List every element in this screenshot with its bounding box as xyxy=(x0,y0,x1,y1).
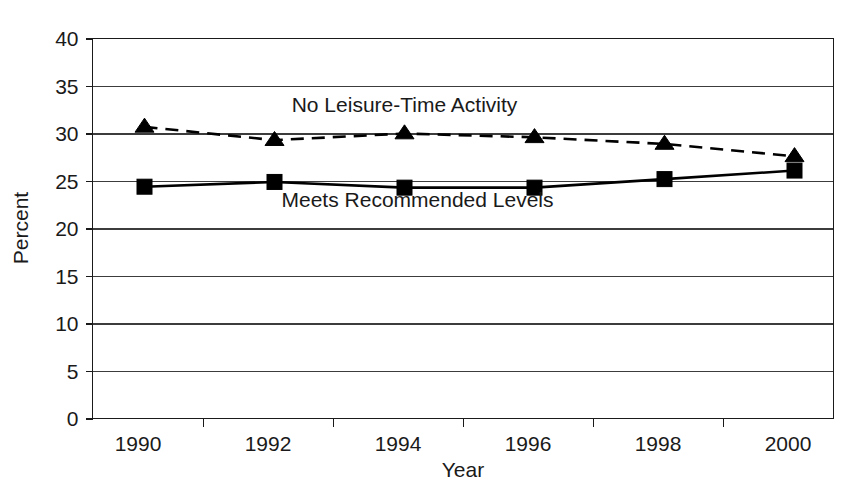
marker-triangle-2000 xyxy=(785,148,804,162)
x-tick-label-1994: 1994 xyxy=(375,432,422,455)
x-axis-tick-labels: 199019921994199619982000 xyxy=(115,432,812,455)
series-line-2 xyxy=(145,171,795,188)
data-series-group xyxy=(135,118,804,195)
series-annotation-1: No Leisure-Time Activity xyxy=(292,93,518,116)
chart-canvas: 0510152025303540 19901992199419961998200… xyxy=(0,0,859,498)
x-tick-label-1998: 1998 xyxy=(635,432,682,455)
y-tick-label-5: 5 xyxy=(67,360,79,383)
x-tick-label-1996: 1996 xyxy=(505,432,552,455)
line-chart-figure: 0510152025303540 19901992199419961998200… xyxy=(0,0,859,498)
y-axis-tick-labels: 0510152025303540 xyxy=(55,27,78,430)
y-axis-tickmarks xyxy=(86,39,93,419)
y-tick-label-40: 40 xyxy=(55,27,78,50)
marker-square-1990 xyxy=(137,179,152,194)
y-tick-label-25: 25 xyxy=(55,170,78,193)
marker-triangle-1998 xyxy=(655,135,674,149)
x-tick-label-2000: 2000 xyxy=(765,432,812,455)
y-tick-label-15: 15 xyxy=(55,265,78,288)
marker-square-1998 xyxy=(657,172,672,187)
y-tick-label-20: 20 xyxy=(55,217,78,240)
marker-triangle-1990 xyxy=(135,118,154,132)
x-axis-title: Year xyxy=(442,458,484,481)
marker-triangle-1996 xyxy=(525,129,544,143)
marker-square-2000 xyxy=(787,163,802,178)
y-axis-title: Percent xyxy=(9,192,32,265)
marker-square-1992 xyxy=(267,174,282,189)
x-tick-label-1992: 1992 xyxy=(245,432,292,455)
series-annotation-2: Meets Recommended Levels xyxy=(282,188,554,211)
y-tick-label-30: 30 xyxy=(55,122,78,145)
gridlines-group xyxy=(93,87,834,372)
y-tick-label-10: 10 xyxy=(55,312,78,335)
series-line-1 xyxy=(145,127,795,156)
x-tick-label-1990: 1990 xyxy=(115,432,162,455)
x-axis-tickmarks xyxy=(204,419,724,427)
y-tick-label-35: 35 xyxy=(55,75,78,98)
marker-triangle-1994 xyxy=(395,125,414,139)
series-annotations-group: No Leisure-Time ActivityMeets Recommende… xyxy=(282,93,554,211)
series-1 xyxy=(135,118,804,161)
y-tick-label-0: 0 xyxy=(67,407,79,430)
